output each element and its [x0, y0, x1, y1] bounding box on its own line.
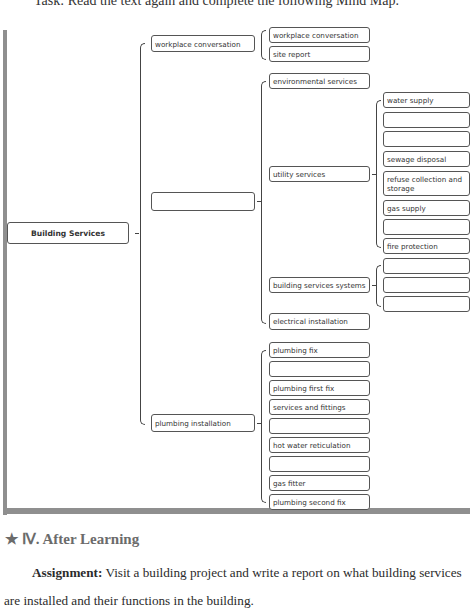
- node-gas-supply: gas supply: [383, 200, 470, 216]
- node-blank-systems-3[interactable]: [383, 296, 470, 312]
- node-environmental-services: environmental services: [269, 73, 370, 89]
- section-heading: ★ Ⅳ. After Learning: [5, 530, 139, 548]
- node-blank-level1[interactable]: [151, 192, 255, 211]
- node-sewage-disposal: sewage disposal: [383, 151, 470, 167]
- node-plumbing-first-fix: plumbing first fix: [269, 380, 370, 396]
- section-title: Ⅳ. After Learning: [22, 531, 139, 547]
- root-brace: [140, 43, 145, 425]
- node-plumbing-fix: plumbing fix: [269, 342, 370, 358]
- node-utility-services: utility services: [269, 166, 370, 182]
- node-blank-systems-2[interactable]: [383, 277, 470, 293]
- node-blank-utility-2[interactable]: [383, 131, 470, 147]
- node-blank-plumbing-1[interactable]: [269, 361, 370, 377]
- assignment-label: Assignment:: [32, 565, 102, 580]
- frame-border-bottom: [3, 508, 470, 514]
- instruction-text: Task: Read the text again and complete t…: [34, 0, 399, 9]
- plumbing-brace-tip: [257, 423, 261, 424]
- utility-brace-tip: [372, 174, 376, 175]
- utility-brace: [376, 100, 381, 248]
- node-hot-water-reticulation: hot water reticulation: [269, 437, 370, 453]
- plumbing-brace: [261, 350, 266, 503]
- mind-map-root: Building Services: [7, 222, 129, 244]
- root-brace-tip: [135, 233, 139, 234]
- node-site-report: site report: [269, 46, 370, 62]
- star-icon: ★: [5, 531, 18, 547]
- node-blank-systems-1[interactable]: [383, 258, 470, 274]
- node-workplace-conversation: workplace conversation: [151, 35, 255, 52]
- node-blank-utility-3[interactable]: [383, 219, 470, 235]
- node-blank-plumbing-2[interactable]: [269, 418, 370, 434]
- frame-border-left: [3, 30, 7, 515]
- services-brace: [261, 81, 266, 324]
- node-blank-utility-1[interactable]: [383, 112, 470, 128]
- node-refuse-collection: refuse collection and storage: [383, 171, 470, 196]
- assignment-paragraph: Assignment: Visit a building project and…: [4, 559, 476, 615]
- node-electrical-installation: electrical installation: [269, 313, 370, 330]
- node-fire-protection: fire protection: [383, 238, 470, 254]
- node-gas-fitter: gas fitter: [269, 475, 370, 491]
- node-building-services-systems: building services systems: [269, 277, 370, 293]
- systems-brace-tip: [372, 285, 376, 286]
- node-plumbing-installation: plumbing installation: [151, 414, 255, 432]
- workplace-brace: [261, 30, 266, 60]
- services-brace-tip: [257, 201, 261, 202]
- node-services-and-fittings: services and fittings: [269, 399, 370, 415]
- systems-brace: [376, 265, 381, 307]
- node-water-supply: water supply: [383, 92, 470, 108]
- node-blank-plumbing-3[interactable]: [269, 456, 370, 472]
- node-workplace-conversation-child: workplace conversation: [269, 27, 370, 43]
- node-plumbing-second-fix: plumbing second fix: [269, 494, 370, 510]
